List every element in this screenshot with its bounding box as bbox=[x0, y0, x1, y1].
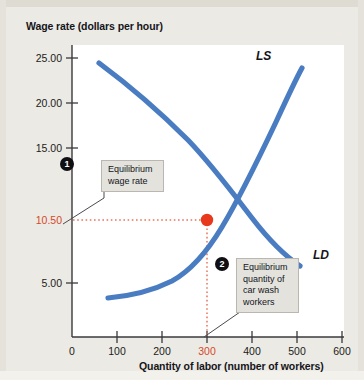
annotation-callout-equilibrium-wage: Equilibrium wage rate bbox=[101, 160, 164, 192]
annotation-2-line-2: quantity of bbox=[243, 274, 293, 286]
annotation-2-line-4: workers bbox=[243, 297, 293, 309]
x-tick-label-600: 600 bbox=[322, 345, 362, 357]
annotation-badge-2: 2 bbox=[215, 257, 229, 271]
labor-demand-curve-label: LD bbox=[313, 248, 329, 262]
y-tick-label-20: 20.00 bbox=[16, 97, 62, 109]
y-axis-title: Wage rate (dollars per hour) bbox=[26, 20, 163, 32]
y-tick-label-equilibrium: 10.50 bbox=[16, 214, 62, 226]
x-tick-label-100: 100 bbox=[97, 345, 137, 357]
annotation-badge-1: 1 bbox=[60, 157, 74, 171]
annotation-callout-equilibrium-quantity: Equilibrium quantity of car wash workers bbox=[236, 258, 299, 313]
figure-container: Wage rate (dollars per hour) Quantity of… bbox=[0, 0, 364, 380]
x-tick-label-0: 0 bbox=[52, 345, 92, 357]
annotation-1-line-1: Equilibrium bbox=[108, 164, 158, 176]
x-tick-label-400: 400 bbox=[232, 345, 272, 357]
x-tick-label-500: 500 bbox=[277, 345, 317, 357]
labor-supply-curve-label: LS bbox=[256, 49, 271, 63]
x-axis-title: Quantity of labor (number of workers) bbox=[139, 360, 324, 372]
equilibrium-point-marker bbox=[201, 214, 213, 226]
y-tick-label-15: 15.00 bbox=[16, 142, 62, 154]
x-tick-label-200: 200 bbox=[142, 345, 182, 357]
x-tick-label-equilibrium: 300 bbox=[187, 345, 227, 357]
annotation-2-line-1: Equilibrium bbox=[243, 262, 293, 274]
y-tick-label-25: 25.00 bbox=[16, 52, 62, 64]
annotation-1-line-2: wage rate bbox=[108, 176, 158, 188]
annotation-2-line-3: car wash bbox=[243, 285, 293, 297]
y-tick-label-5: 5.00 bbox=[16, 277, 62, 289]
